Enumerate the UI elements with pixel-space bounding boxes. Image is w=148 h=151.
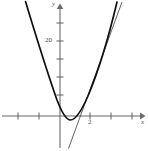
figure-background [0, 0, 148, 151]
y-axis-label: y [52, 1, 55, 8]
x-axis-label: x [141, 119, 144, 126]
plot-canvas [0, 0, 148, 151]
x-tick-label-2: 2 [88, 119, 92, 126]
graph-figure: y x 20 2 [0, 0, 148, 151]
y-tick-label-20: 20 [45, 37, 52, 44]
